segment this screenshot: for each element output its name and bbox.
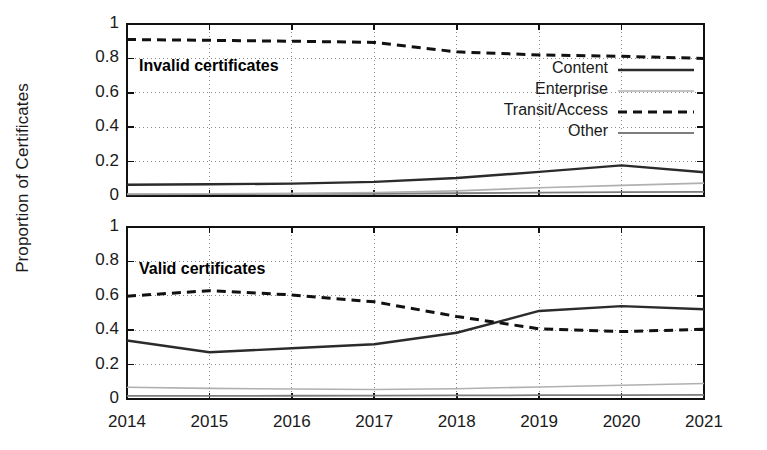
x-axis-tick-label: 2014 <box>92 412 162 432</box>
y-axis-tick-label: 1 <box>73 216 119 236</box>
y-axis-tick-label: 1 <box>73 13 119 33</box>
y-axis-tick-label: 0.8 <box>73 250 119 270</box>
x-axis-tick-label: 2021 <box>669 412 739 432</box>
legend-label-enterprise: Enterprise <box>428 80 608 98</box>
series-line-other <box>127 395 704 396</box>
x-axis-tick-label: 2020 <box>587 412 657 432</box>
panel-title-invalid: Invalid certificates <box>139 57 279 75</box>
y-axis-tick-label: 0.2 <box>73 354 119 374</box>
y-axis-tick-label: 0.4 <box>73 116 119 136</box>
y-axis-tick-label: 0 <box>73 185 119 205</box>
series-line-transit-access <box>127 39 704 58</box>
series-line-content <box>127 306 704 352</box>
legend-label-transit-access: Transit/Access <box>428 101 608 119</box>
legend-label-other: Other <box>428 122 608 140</box>
panel-title-valid: Valid certificates <box>139 260 265 278</box>
plot-frame <box>127 24 704 196</box>
y-axis-tick-label: 0.6 <box>73 82 119 102</box>
y-axis-tick-label: 0.8 <box>73 47 119 67</box>
y-axis-tick-label: 0 <box>73 388 119 408</box>
series-line-content <box>127 165 704 184</box>
x-axis-tick-label: 2019 <box>504 412 574 432</box>
x-axis-tick-label: 2018 <box>422 412 492 432</box>
y-axis-tick-label: 0.2 <box>73 151 119 171</box>
y-axis-tick-label: 0.4 <box>73 319 119 339</box>
plot-frame <box>127 227 704 399</box>
chart-figure: 00.20.40.60.81Invalid certificates00.20.… <box>0 0 767 450</box>
y-axis-tick-label: 0.6 <box>73 285 119 305</box>
series-line-enterprise <box>127 384 704 390</box>
x-axis-tick-label: 2016 <box>257 412 327 432</box>
series-line-transit-access <box>127 291 704 332</box>
legend-label-content: Content <box>428 59 608 77</box>
y-axis-title: Proportion of Certificates <box>13 48 33 308</box>
x-axis-tick-label: 2015 <box>174 412 244 432</box>
x-axis-tick-label: 2017 <box>339 412 409 432</box>
